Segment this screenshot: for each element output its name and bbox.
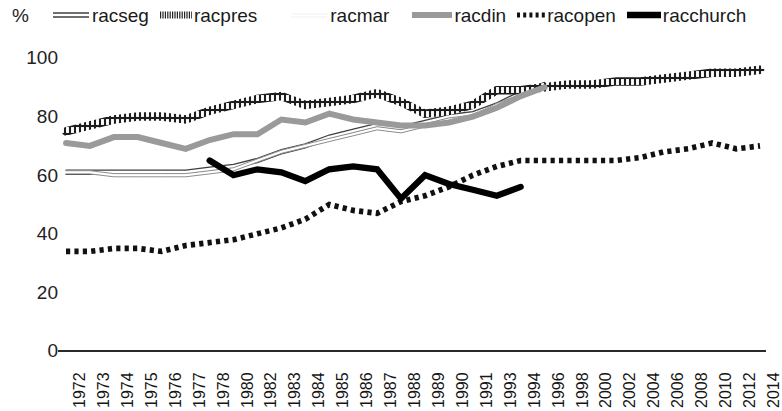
plot-area: [0, 30, 771, 355]
x-tick-1985: 1985: [335, 372, 351, 408]
x-tick-2014: 2014: [766, 372, 782, 408]
racdin-line-swatch-icon: [411, 8, 453, 22]
legend-item-racchurch[interactable]: racchurch: [626, 6, 746, 25]
x-tick-1994: 1994: [527, 372, 543, 408]
legend-item-racopen[interactable]: racopen: [516, 6, 616, 25]
x-tick-2012: 2012: [742, 372, 758, 408]
legend-item-racpres[interactable]: racpres: [159, 6, 257, 25]
x-tick-1984: 1984: [311, 372, 327, 408]
chart-legend: % racseg racpres: [0, 0, 771, 30]
legend-label-racpres: racpres: [194, 6, 257, 25]
series-racopen: [66, 143, 760, 251]
series-line-racopen: [66, 143, 760, 251]
x-tick-2004: 2004: [646, 372, 662, 408]
x-tick-2010: 2010: [718, 372, 734, 408]
series-line-racpres: [66, 70, 760, 132]
racopen-line-swatch-icon: [516, 8, 546, 22]
series-line-racseg: [66, 82, 545, 170]
legend-item-racseg[interactable]: racseg: [51, 6, 149, 25]
racpres-line-swatch-icon: [159, 8, 193, 22]
x-tick-1976: 1976: [168, 372, 184, 408]
x-tick-1996: 1996: [551, 372, 567, 408]
x-tick-1973: 1973: [96, 372, 112, 408]
legend-item-racmar[interactable]: racmar: [289, 6, 389, 25]
racchurch-line-swatch-icon: [626, 8, 662, 22]
racmar-line-swatch-icon: [289, 8, 329, 22]
x-tick-2006: 2006: [670, 372, 686, 408]
x-tick-1974: 1974: [120, 372, 136, 408]
x-tick-1975: 1975: [144, 372, 160, 408]
x-tick-1972: 1972: [72, 372, 88, 408]
series-racpres: [66, 70, 760, 132]
x-tick-2002: 2002: [622, 372, 638, 408]
x-tick-1980: 1980: [240, 372, 256, 408]
x-tick-1989: 1989: [431, 372, 447, 408]
x-tick-1991: 1991: [479, 372, 495, 408]
y-axis-unit-label: %: [12, 6, 29, 25]
legend-item-racdin[interactable]: racdin: [411, 6, 506, 25]
plot-svg: [0, 30, 771, 355]
racseg-line-swatch-icon: [51, 8, 91, 22]
x-tick-1983: 1983: [287, 372, 303, 408]
legend-label-racdin: racdin: [454, 6, 506, 25]
legend-label-racmar: racmar: [330, 6, 389, 25]
series-line-racseg: [66, 87, 545, 175]
legend-label-racchurch: racchurch: [663, 6, 746, 25]
x-tick-1986: 1986: [359, 372, 375, 408]
x-tick-1982: 1982: [263, 372, 279, 408]
legend-label-racopen: racopen: [547, 6, 616, 25]
x-tick-1977: 1977: [192, 372, 208, 408]
x-tick-1993: 1993: [503, 372, 519, 408]
x-axis-labels: 1972197319741975197619771978198019821983…: [0, 356, 771, 411]
x-tick-2008: 2008: [694, 372, 710, 408]
legend-label-racseg: racseg: [92, 6, 149, 25]
x-tick-1987: 1987: [383, 372, 399, 408]
x-tick-2000: 2000: [598, 372, 614, 408]
x-tick-1998: 1998: [575, 372, 591, 408]
series-line-racchurch: [210, 161, 521, 199]
series-racchurch: [210, 161, 521, 199]
series-line-racmar: [66, 86, 545, 174]
series-layer: [66, 70, 760, 252]
x-tick-1988: 1988: [407, 372, 423, 408]
series-racmar: [66, 86, 545, 177]
x-tick-1978: 1978: [216, 372, 232, 408]
x-tick-1990: 1990: [455, 372, 471, 408]
series-racseg: [66, 82, 545, 174]
